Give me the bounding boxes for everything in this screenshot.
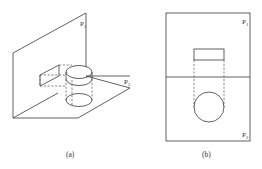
plane-p2-outline [13, 76, 130, 118]
label-p2-b: P2 [242, 131, 248, 140]
p2-ellipse-projection [66, 94, 92, 107]
p2-circle-view [194, 92, 224, 122]
panel-a: P1 P2 (a) [13, 13, 130, 159]
label-p1-b: P1 [242, 18, 248, 27]
p1-rectangle-projection [40, 65, 59, 86]
label-p2-a: P2 [124, 78, 130, 87]
cylinder-bottom-arc [66, 79, 92, 86]
caption-a: (a) [66, 150, 75, 159]
p1-rectangle-view [194, 49, 224, 60]
projection-diagram: P1 P2 (a) P1 P2 (b) [0, 0, 262, 169]
label-p1-a: P1 [80, 20, 86, 29]
plane-p1-p2-intersection [13, 93, 58, 118]
caption-b: (b) [202, 150, 211, 159]
panel-b: P1 P2 (b) [166, 13, 250, 159]
cylinder-top-ellipse [66, 66, 92, 79]
